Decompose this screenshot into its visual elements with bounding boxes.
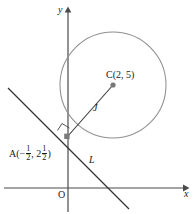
point-a-negative-sign: − bbox=[20, 149, 26, 159]
point-a-y-integer: 2 bbox=[36, 149, 41, 159]
center-point-dot bbox=[110, 82, 115, 87]
x-axis bbox=[4, 185, 190, 192]
origin-label: O bbox=[58, 190, 65, 200]
geometry-figure: y x O C(2, 5) J L A(−12, 212) bbox=[0, 0, 194, 214]
circle-center-label: C(2, 5) bbox=[106, 70, 134, 80]
line-l-label: L bbox=[89, 155, 95, 165]
point-a-prefix: A( bbox=[9, 148, 20, 159]
x-axis-label: x bbox=[184, 189, 188, 199]
point-a-dot bbox=[64, 134, 69, 139]
y-axis-label: y bbox=[58, 5, 62, 15]
segment-j-label: J bbox=[93, 103, 97, 113]
point-a-label: A(−12, 212) bbox=[9, 145, 51, 163]
point-a-suffix: ) bbox=[47, 148, 50, 159]
radius-segment-J bbox=[68, 85, 114, 137]
